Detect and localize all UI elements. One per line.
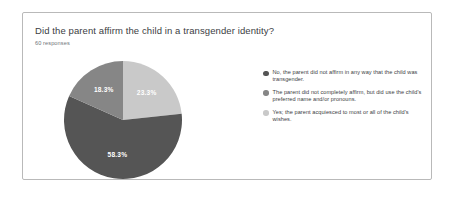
response-count: 60 responses [35, 39, 419, 47]
chart-area: 23.3%58.3%18.3% No, the parent did not a… [23, 55, 432, 180]
pie-slice-group [64, 61, 182, 179]
card-header: Did the parent affirm the child in a tra… [35, 25, 419, 47]
pie-chart: 23.3%58.3%18.3% [63, 60, 183, 180]
legend-dot-icon [263, 71, 269, 77]
legend-item-label: No, the parent did not affirm in any way… [273, 69, 424, 84]
survey-response-card: Did the parent affirm the child in a tra… [22, 12, 432, 180]
pie-chart-svg: 23.3%58.3%18.3% [63, 60, 183, 180]
legend-item-label: The parent did not completely affirm, bu… [273, 89, 424, 104]
page-title: Did the parent affirm the child in a tra… [35, 25, 419, 37]
pie-slice-label: 18.3% [94, 86, 114, 93]
legend-item-label: Yes; the parent acquiesced to most or al… [273, 109, 424, 124]
pie-slice-label: 23.3% [137, 89, 157, 96]
chart-legend: No, the parent did not affirm in any way… [263, 69, 423, 128]
legend-dot-icon [263, 90, 269, 96]
legend-item[interactable]: The parent did not completely affirm, bu… [263, 89, 423, 104]
screenshot-root: Did the parent affirm the child in a tra… [0, 0, 454, 199]
legend-item[interactable]: Yes; the parent acquiesced to most or al… [263, 109, 423, 124]
legend-dot-icon [263, 110, 269, 116]
legend-item[interactable]: No, the parent did not affirm in any way… [263, 69, 423, 84]
pie-slice-label: 58.3% [108, 151, 128, 158]
